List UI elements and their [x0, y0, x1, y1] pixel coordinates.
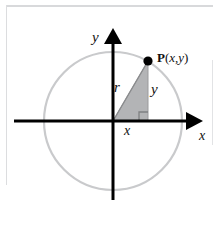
coordinate-plane-diagram: [0, 0, 220, 233]
point-p-label: P(x,y): [157, 51, 188, 64]
y-axis-arrowhead: [104, 28, 122, 44]
y-axis-label: y: [92, 30, 99, 45]
vertical-leg-label: y: [151, 82, 158, 97]
point-p-close-paren: ): [184, 50, 188, 65]
horizontal-leg-label: x: [124, 124, 130, 138]
radius-label: r: [114, 80, 120, 95]
point-p-name: P: [157, 50, 165, 65]
x-axis-label: x: [199, 129, 205, 143]
point-p-dot: [143, 56, 152, 65]
figure-frame: y x r y x P(x,y): [0, 0, 220, 233]
